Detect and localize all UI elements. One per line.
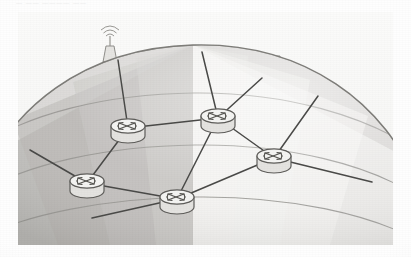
router-lower-left[interactable] xyxy=(70,174,104,198)
router-icon xyxy=(70,174,104,198)
router-icon xyxy=(257,149,291,173)
router-upper-left[interactable] xyxy=(111,119,145,143)
router-icon xyxy=(160,190,194,214)
router-right[interactable] xyxy=(257,149,291,173)
router-icon xyxy=(201,109,235,133)
network-globe-figure xyxy=(18,12,393,245)
page-root: — —— ———— —— xyxy=(0,0,411,257)
top-crop-text: — —— ———— —— xyxy=(16,0,136,7)
router-icon xyxy=(111,119,145,143)
router-top-center[interactable] xyxy=(201,109,235,133)
globe-illustration xyxy=(18,12,393,245)
router-bottom-center[interactable] xyxy=(160,190,194,214)
